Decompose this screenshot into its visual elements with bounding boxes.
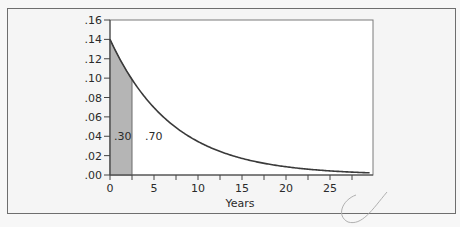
y-tick-label: .06 — [85, 111, 103, 124]
y-tick-label: .10 — [85, 72, 103, 85]
y-tick-label: .12 — [85, 53, 103, 66]
x-axis-title: Years — [224, 197, 254, 210]
x-axis: 0510152025 — [107, 175, 374, 195]
exponential-density-chart: .00.02.04.06.08.10.12.14.16 0510152025 Y… — [0, 0, 460, 227]
x-tick-label: 10 — [191, 182, 205, 195]
y-tick-label: .00 — [85, 169, 103, 182]
pencil-mark — [342, 192, 387, 223]
y-tick-label: .16 — [85, 14, 103, 27]
x-tick-label: 5 — [151, 182, 158, 195]
y-tick-label: .02 — [85, 150, 103, 163]
y-tick-label: .04 — [85, 130, 103, 143]
x-tick-label: 15 — [235, 182, 249, 195]
x-tick-label: 0 — [107, 182, 114, 195]
left-area-label: .30 — [114, 130, 132, 143]
x-tick-label: 20 — [279, 182, 293, 195]
plot-area — [110, 20, 373, 175]
y-tick-label: .08 — [85, 92, 103, 105]
x-tick-label: 25 — [323, 182, 337, 195]
y-axis: .00.02.04.06.08.10.12.14.16 — [85, 14, 111, 182]
y-tick-label: .14 — [85, 33, 103, 46]
right-area-label: .70 — [145, 130, 163, 143]
